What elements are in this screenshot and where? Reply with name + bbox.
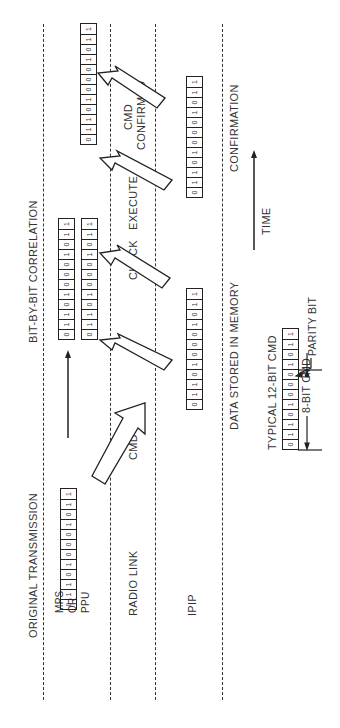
block-arrow-confirmed-icon	[98, 66, 165, 108]
diagram-arrows	[0, 0, 340, 728]
block-arrow-execute-icon	[100, 245, 170, 288]
eight-bit-dimension-icon	[298, 353, 322, 450]
diagram-canvas: ORIGINAL TRANSMISSION BIT-BY-BIT CORRELA…	[0, 0, 340, 728]
block-arrow-check-icon	[100, 334, 172, 370]
parity-bit-pointer-icon	[296, 358, 311, 377]
transfer-arrow-icon	[65, 350, 71, 438]
block-arrow-cmd-icon	[92, 403, 145, 484]
time-arrow-icon	[251, 150, 257, 250]
block-arrow-confirm-up-icon	[100, 151, 172, 190]
